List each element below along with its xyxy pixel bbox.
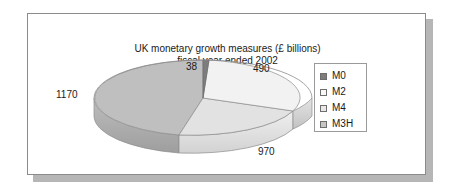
data-label-m3h: 1170 xyxy=(56,89,78,100)
legend-swatch-m3h xyxy=(320,121,327,128)
legend-item-m2: M2 xyxy=(320,84,366,100)
legend-swatch-m2 xyxy=(320,89,327,96)
data-label-m4: 970 xyxy=(258,146,275,157)
legend-item-m4: M4 xyxy=(320,100,366,116)
legend-label-m2: M2 xyxy=(332,87,346,97)
pie-chart xyxy=(88,56,318,166)
legend-label-m4: M4 xyxy=(332,103,346,113)
legend-item-m3h: M3H xyxy=(320,116,366,132)
chart-title-line-1: UK monetary growth measures (£ billions) xyxy=(134,43,320,54)
chart-legend: M0 M2 M4 M3H xyxy=(314,63,367,132)
data-label-m2: 490 xyxy=(253,63,270,74)
legend-label-m3h: M3H xyxy=(332,119,353,129)
chart-panel: UK monetary growth measures (£ billions)… xyxy=(27,13,426,175)
data-label-m0: 38 xyxy=(186,61,197,72)
legend-swatch-m4 xyxy=(320,105,327,112)
legend-swatch-m0 xyxy=(320,73,327,80)
chart-plot-area: UK monetary growth measures (£ billions)… xyxy=(28,14,427,176)
legend-item-m0: M0 xyxy=(320,68,366,84)
legend-label-m0: M0 xyxy=(332,71,346,81)
